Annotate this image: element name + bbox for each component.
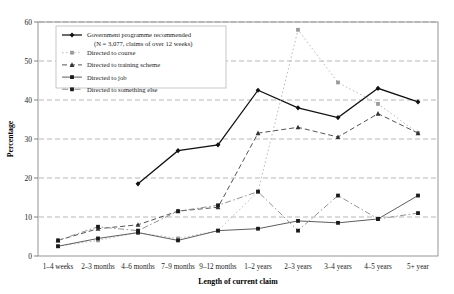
- data-point: [256, 227, 260, 231]
- legend-swatch-marker: [70, 87, 74, 91]
- x-tick-label: 2–3 months: [81, 263, 115, 271]
- series-5: [56, 190, 420, 243]
- legend-label[interactable]: Directed to training scheme: [87, 61, 160, 68]
- data-point: [376, 102, 380, 106]
- series-line: [138, 88, 418, 184]
- data-point: [336, 221, 340, 225]
- x-tick-label: 2–3 years: [284, 263, 312, 271]
- data-point: [70, 75, 74, 79]
- x-tick-label: 4–5 years: [364, 263, 392, 271]
- legend-label[interactable]: Directed to job: [87, 74, 127, 81]
- data-point: [56, 239, 60, 243]
- y-tick-label: 60: [25, 18, 33, 27]
- series-3: [56, 111, 421, 242]
- x-tick-label: 1–4 weeks: [43, 263, 74, 271]
- series-line: [58, 196, 418, 247]
- series-4: [56, 194, 420, 249]
- data-point: [56, 244, 60, 248]
- data-point: [296, 219, 300, 223]
- legend-swatch-marker: [70, 51, 74, 55]
- legend-label[interactable]: Government programme recommended: [87, 31, 192, 38]
- data-point: [416, 194, 420, 198]
- x-tick-label: 9–12 months: [199, 263, 237, 271]
- data-point: [256, 190, 260, 194]
- legend-sublabel: (N = 3,077, claims of over 12 weeks): [94, 40, 192, 48]
- x-tick-label: 3–4 years: [324, 263, 352, 271]
- series-1: [136, 86, 421, 187]
- line-chart: 0102030405060Percentage1–4 weeks2–3 mont…: [0, 0, 454, 294]
- data-point: [96, 237, 100, 241]
- y-tick-label: 10: [25, 213, 33, 222]
- y-tick-label: 50: [25, 57, 33, 66]
- data-point: [296, 125, 301, 130]
- data-point: [216, 203, 220, 207]
- y-tick-label: 30: [25, 135, 33, 144]
- data-point: [176, 239, 180, 243]
- x-tick-label: 1–2 years: [244, 263, 272, 271]
- y-axis-title: Percentage: [6, 120, 15, 157]
- data-point: [216, 229, 220, 233]
- y-tick-label: 40: [25, 96, 33, 105]
- legend-label[interactable]: Directed to something else: [87, 86, 158, 93]
- data-point: [70, 87, 74, 91]
- chart-container: 0102030405060Percentage1–4 weeks2–3 mont…: [0, 0, 454, 294]
- data-point: [296, 105, 301, 110]
- data-point: [296, 28, 300, 32]
- x-axis-title: Length of current claim: [198, 277, 278, 286]
- x-tick-label: 5+ year: [407, 263, 429, 271]
- data-point: [296, 229, 300, 233]
- legend-label[interactable]: Directed to course: [87, 49, 135, 56]
- data-point: [336, 81, 340, 85]
- x-tick-label: 4–6 months: [121, 263, 155, 271]
- legend-swatch-marker: [70, 75, 74, 79]
- data-point: [70, 51, 74, 55]
- data-point: [136, 229, 140, 233]
- data-point: [96, 225, 100, 229]
- data-point: [376, 111, 381, 116]
- x-tick-label: 7–9 months: [161, 263, 195, 271]
- data-point: [416, 211, 420, 215]
- series-line: [58, 192, 418, 241]
- y-tick-label: 20: [25, 174, 33, 183]
- data-point: [376, 217, 380, 221]
- data-point: [176, 209, 180, 213]
- series-line: [58, 114, 418, 241]
- data-point: [336, 194, 340, 198]
- y-tick-label: 0: [28, 252, 32, 261]
